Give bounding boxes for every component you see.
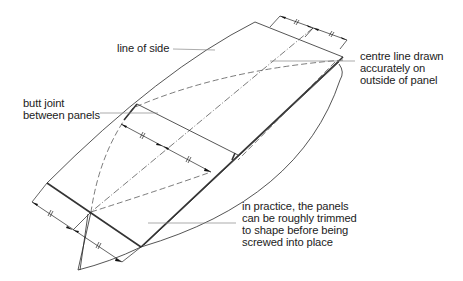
- hull-panel-diagram: [0, 0, 463, 281]
- label-in-practice: in practice, the panels can be roughly t…: [242, 200, 357, 248]
- label-centre-line: centre line drawn accurately on outside …: [360, 50, 444, 86]
- line-of-side-curve-lower: [91, 108, 133, 212]
- bow-curve: [91, 172, 211, 212]
- butt-joint: [124, 104, 238, 160]
- leader-line-of-side: [173, 49, 215, 50]
- middle-dimension: [121, 124, 211, 172]
- label-butt-joint: butt joint between panels: [23, 97, 100, 121]
- label-line-of-side: line of side: [117, 42, 169, 54]
- line-of-side-curve: [133, 60, 343, 108]
- right-side-dashed: [238, 62, 335, 160]
